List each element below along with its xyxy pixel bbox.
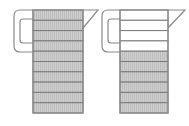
segment-filled [33,72,83,82]
segment-empty [120,31,168,41]
segment-filled [33,31,83,41]
segment-filled [33,10,83,20]
segment-filled [33,20,83,30]
segment-filled [120,103,168,113]
segment-filled [120,82,168,92]
segment-empty [120,20,168,30]
segment-filled [120,62,168,72]
jug-handle-outer [14,10,33,52]
jug-handle-inner [108,19,120,43]
segment-filled [33,103,83,113]
segment-filled [120,51,168,61]
segment-filled [120,92,168,102]
segment-empty [120,10,168,20]
segment-filled [33,41,83,51]
jug-handle-inner [20,19,33,43]
segment-filled [33,82,83,92]
segment-filled [33,92,83,102]
jug-left [14,10,98,113]
jug-spout [83,10,98,28]
segment-filled [33,62,83,72]
jug-handle-outer [102,10,120,52]
jug-right [102,10,185,113]
segment-empty [120,41,168,51]
segment-filled [33,51,83,61]
segment-filled [120,72,168,82]
jug-diagram [0,0,189,126]
jug-spout [168,10,185,28]
